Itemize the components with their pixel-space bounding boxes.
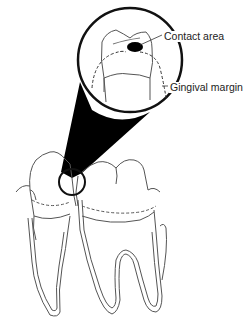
magnified-view-circle — [78, 8, 182, 112]
tooth-diagram-svg — [0, 0, 252, 327]
teeth — [16, 152, 167, 316]
tooth-diagram: Contact area Gingival margin — [0, 0, 252, 327]
gingival-margin-label: Gingival margin — [169, 82, 244, 93]
contact-area-blob — [127, 42, 143, 52]
contact-area-label: Contact area — [163, 31, 225, 42]
